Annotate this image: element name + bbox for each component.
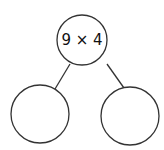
connector-right <box>107 64 124 88</box>
whole-label: 9 × 4 <box>57 30 107 50</box>
connector-left <box>55 64 70 89</box>
number-bond-diagram <box>0 0 164 150</box>
part-circle-right[interactable] <box>101 87 159 145</box>
part-circle-left[interactable] <box>11 85 69 143</box>
